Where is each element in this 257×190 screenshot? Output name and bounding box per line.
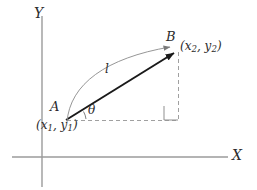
diagram-canvas (0, 0, 257, 190)
y-axis-label: Y (34, 6, 43, 20)
point-b-coordinates: (x2, y2) (180, 40, 222, 54)
x-axis-label: X (232, 148, 242, 162)
vector-diagram-figure: Y X A B (x1, y1) (x2, y2) l θ (0, 0, 257, 190)
coord-a-close: ) (73, 118, 78, 132)
angle-theta-label: θ (88, 104, 95, 116)
coord-b-close: ) (217, 39, 222, 53)
point-b-label: B (166, 30, 176, 43)
right-angle-marker-icon (164, 106, 178, 120)
angle-arc (84, 112, 87, 120)
coord-a-separator: , (53, 118, 61, 132)
length-label: l (105, 63, 109, 75)
point-a-label: A (50, 100, 59, 113)
point-a-coordinates: (x1, y1) (36, 119, 78, 133)
coord-b-separator: , (197, 39, 205, 53)
